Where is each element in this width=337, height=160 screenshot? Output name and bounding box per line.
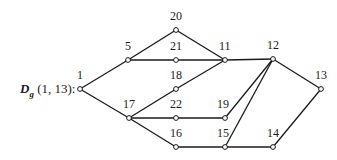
node-16 <box>174 145 179 150</box>
node-label-11: 11 <box>219 39 231 53</box>
edge-20-11 <box>176 30 225 60</box>
labels-layer: 15202111181213172219161514 <box>77 9 327 140</box>
node-14 <box>271 145 276 150</box>
node-15 <box>223 145 228 150</box>
node-20 <box>174 28 179 33</box>
node-label-21: 21 <box>170 39 182 53</box>
edge-1-5 <box>80 60 128 89</box>
node-label-18: 18 <box>170 68 182 82</box>
node-label-22: 22 <box>170 97 182 111</box>
node-label-19: 19 <box>217 97 229 111</box>
edges-layer <box>80 30 321 147</box>
edge-17-18 <box>129 89 176 118</box>
node-label-15: 15 <box>217 126 229 140</box>
edge-12-19 <box>225 59 273 118</box>
node-21 <box>174 58 179 63</box>
node-11 <box>223 58 228 63</box>
edge-1-17 <box>80 89 129 118</box>
node-5 <box>126 58 131 63</box>
edge-5-20 <box>128 30 176 60</box>
edge-11-12 <box>225 59 273 60</box>
edge-17-16 <box>129 118 176 147</box>
node-18 <box>174 87 179 92</box>
network-diagram: 15202111181213172219161514 <box>0 0 337 160</box>
node-label-16: 16 <box>170 126 182 140</box>
node-label-14: 14 <box>267 126 279 140</box>
edge-12-15 <box>225 59 273 147</box>
node-17 <box>127 116 132 121</box>
node-13 <box>319 87 324 92</box>
node-label-17: 17 <box>123 97 135 111</box>
node-label-1: 1 <box>77 68 83 82</box>
node-label-5: 5 <box>125 39 131 53</box>
edge-14-13 <box>273 89 321 147</box>
node-12 <box>271 57 276 62</box>
edge-12-13 <box>273 59 321 89</box>
node-label-12: 12 <box>267 38 279 52</box>
node-1 <box>78 87 83 92</box>
edge-18-11 <box>176 60 225 89</box>
node-label-13: 13 <box>315 68 327 82</box>
node-19 <box>223 116 228 121</box>
node-22 <box>174 116 179 121</box>
node-label-20: 20 <box>170 9 182 23</box>
